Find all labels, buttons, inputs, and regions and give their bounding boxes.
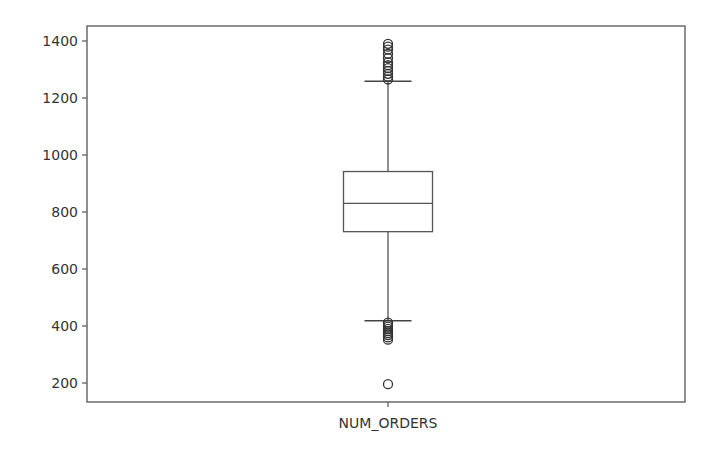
y-tick-label: 600 xyxy=(51,261,78,277)
y-tick-label: 1200 xyxy=(42,90,78,106)
x-tick-label: NUM_ORDERS xyxy=(339,415,438,431)
box-plot-chart: 200400600800100012001400 NUM_ORDERS xyxy=(0,0,717,455)
y-tick-label: 1400 xyxy=(42,33,78,49)
y-tick-label: 200 xyxy=(51,375,78,391)
plot-frame xyxy=(87,26,685,402)
y-tick-label: 1000 xyxy=(42,147,78,163)
y-tick-label: 800 xyxy=(51,204,78,220)
y-axis: 200400600800100012001400 xyxy=(42,33,87,391)
y-tick-label: 400 xyxy=(51,318,78,334)
x-axis: NUM_ORDERS xyxy=(339,402,438,431)
